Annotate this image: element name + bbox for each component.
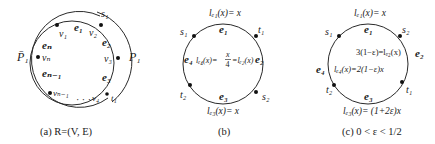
vertex-t2 <box>332 83 336 87</box>
vertex-s1 <box>337 34 341 38</box>
label-p1: P₁ <box>128 50 141 64</box>
latency-e2: =lₑ₂(x) <box>232 56 254 65</box>
label-vn: vₙ <box>42 52 51 63</box>
vertex-v4 <box>105 92 109 96</box>
vertex-s2 <box>254 90 258 94</box>
label-v4: v₄ <box>92 93 99 103</box>
label-e4: e₄ <box>316 63 325 75</box>
label-e4: e₄ <box>184 53 193 65</box>
label-e3: e₃ <box>364 90 373 102</box>
latency-e2: 3(1−ε)=lₑ₂(x) <box>356 47 401 57</box>
latency-e4: lₑ₄(x)=2(1−ε)x <box>334 64 384 74</box>
figure-canvas: v₁ v₂ v₃ v₄ vₙ₋₁ vₙ e₁ e₂ e₃ eₙ eₙ₋₁ · ·… <box>0 0 435 144</box>
label-t2: t₂ <box>326 84 333 95</box>
latency-e3: lₑ₃(x)= x <box>207 106 240 117</box>
label-s1: s₁ <box>180 26 187 37</box>
label-e1: e₁ <box>74 21 83 33</box>
latency-e4: lₑ₄(x)= <box>196 56 217 65</box>
vertex-t1 <box>400 80 404 84</box>
label-e3: e₃ <box>102 71 111 83</box>
latency-e1: lₑ₁(x)= x <box>354 8 387 19</box>
vertex-v1 <box>55 23 59 27</box>
label-t1: t₁ <box>111 93 117 103</box>
panel-b: lₑ₁(x)= x e₁ s₁ t₁ e₄ lₑ₄(x)= x 4 =lₑ₂(x… <box>180 8 270 138</box>
vertex-vn <box>36 55 40 59</box>
label-s2: s₂ <box>402 24 410 35</box>
label-s2: s₂ <box>262 91 270 102</box>
caption-b: (b) <box>218 126 231 138</box>
caption-c: (c) 0 < ε < 1/2 <box>342 126 402 138</box>
label-e3: e₃ <box>219 90 228 102</box>
panel-a: v₁ v₂ v₃ v₄ vₙ₋₁ vₙ e₁ e₂ e₃ eₙ eₙ₋₁ · ·… <box>16 8 141 138</box>
ellipsis: · · · <box>76 94 91 105</box>
label-t2: t₂ <box>180 89 187 100</box>
label-e1: e₁ <box>219 23 228 35</box>
frac-numerator: x <box>225 50 230 59</box>
label-e2: e₂ <box>415 47 424 59</box>
vertex-s1 <box>192 34 196 38</box>
vertex-vn-1 <box>48 91 52 95</box>
label-en: eₙ <box>42 39 52 51</box>
label-v2: v₂ <box>89 27 97 38</box>
vertex-v3 <box>116 56 120 60</box>
label-s1: s₁ <box>325 26 332 37</box>
latency-e1: lₑ₁(x)= x <box>209 8 242 19</box>
label-v1: v₁ <box>59 28 67 39</box>
cycle-r <box>30 21 114 105</box>
label-t1: t₁ <box>406 84 412 95</box>
label-s1: s₁ <box>101 8 108 19</box>
label-t1: t₁ <box>258 24 264 35</box>
label-v3: v₃ <box>104 53 112 64</box>
vertex-t2 <box>188 83 192 87</box>
frac-denominator: 4 <box>226 60 230 69</box>
vertex-v2 <box>99 23 103 27</box>
label-e1: e₁ <box>364 23 373 35</box>
panel-c: lₑ₁(x)= x e₁ s₁ s₂ 3(1−ε)=lₑ₂(x) e₂ e₄ l… <box>316 8 424 138</box>
label-vn-1: vₙ₋₁ <box>53 88 69 98</box>
label-e2: e₂ <box>255 53 264 65</box>
label-en-1: eₙ₋₁ <box>42 67 62 79</box>
label-pbar1: P̄₁ <box>16 50 29 64</box>
caption-a: (a) R=(V, E) <box>40 126 93 138</box>
latency-e3: lₑ₃(x)= (1+2ε)x <box>343 106 402 117</box>
label-e2: e₂ <box>102 36 111 48</box>
